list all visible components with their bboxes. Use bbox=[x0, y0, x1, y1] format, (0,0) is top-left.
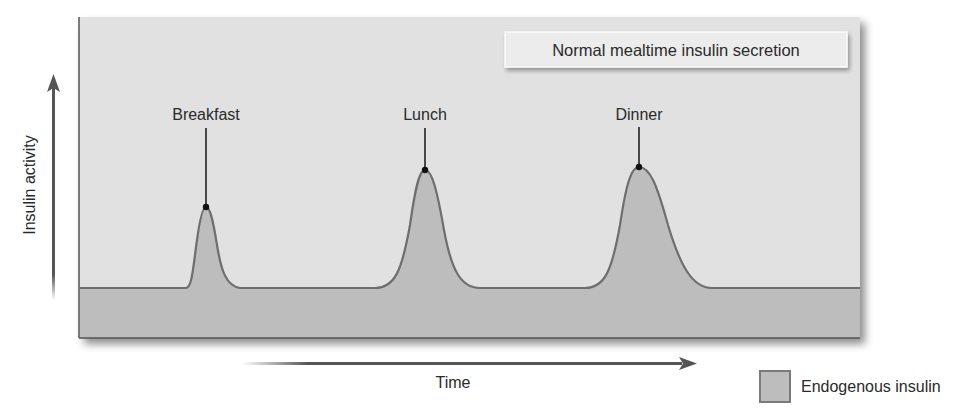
peak-dot bbox=[203, 204, 209, 210]
peak-dot bbox=[422, 167, 428, 173]
peak-dot bbox=[636, 164, 642, 170]
y-axis-label: Insulin activity bbox=[21, 135, 38, 235]
legend-swatch bbox=[760, 371, 790, 402]
meal-label-lunch: Lunch bbox=[403, 106, 447, 123]
chart-title: Normal mealtime insulin secretion bbox=[552, 41, 800, 59]
legend: Endogenous insulin bbox=[760, 371, 941, 402]
legend-label: Endogenous insulin bbox=[801, 378, 941, 395]
y-axis-arrow-icon bbox=[47, 74, 60, 300]
insulin-diagram: Normal mealtime insulin secretion Breakf… bbox=[0, 0, 972, 415]
meal-label-breakfast: Breakfast bbox=[172, 106, 240, 123]
x-axis-arrow-icon bbox=[242, 357, 697, 370]
x-axis-label: Time bbox=[436, 374, 471, 391]
meal-label-dinner: Dinner bbox=[615, 106, 663, 123]
